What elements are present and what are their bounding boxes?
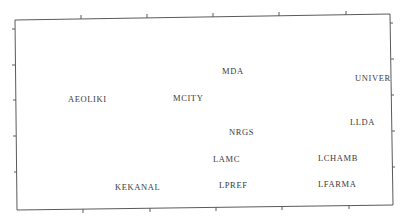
point-label-lfarma: LFARMA [318, 179, 357, 189]
point-label-lamc: LAMC [213, 154, 240, 164]
point-label-nrgs: NRGS [229, 127, 254, 137]
point-label-llda: LLDA [350, 117, 375, 127]
point-label-kekanal: KEKANAL [115, 182, 160, 192]
point-label-lchamb: LCHAMB [318, 153, 358, 163]
point-labels: AEOLIKIMCITYMDAUNIVERLLDANRGSLAMCLCHAMBL… [68, 66, 391, 192]
point-label-univer: UNIVER [355, 73, 391, 83]
point-label-aeoliki: AEOLIKI [68, 94, 107, 104]
point-label-lpref: LPREF [219, 180, 248, 190]
point-label-mcity: MCITY [173, 93, 203, 103]
scatter-chart: AEOLIKIMCITYMDAUNIVERLLDANRGSLAMCLCHAMBL… [0, 0, 405, 221]
point-label-mda: MDA [222, 66, 244, 76]
